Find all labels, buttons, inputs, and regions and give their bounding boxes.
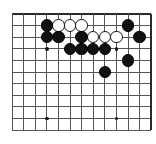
- white-stone-d1[interactable]: [52, 19, 64, 31]
- go-board-diagram: [0, 0, 156, 144]
- hoshi-lower-left-star-point: [45, 117, 49, 121]
- black-stone-d2[interactable]: [52, 31, 64, 43]
- black-stone-h3[interactable]: [99, 43, 111, 55]
- black-stone-k4[interactable]: [122, 54, 134, 66]
- hoshi-upper-right-star-point: [115, 47, 119, 51]
- black-stone-f3[interactable]: [75, 43, 87, 55]
- white-stone-f1[interactable]: [75, 19, 87, 31]
- black-stone-e3[interactable]: [64, 43, 76, 55]
- black-stone-k1[interactable]: [122, 19, 134, 31]
- black-stone-f2[interactable]: [75, 31, 87, 43]
- white-stone-j2[interactable]: [110, 31, 122, 43]
- black-stone-h5[interactable]: [99, 66, 111, 78]
- hoshi-upper-left-star-point: [45, 47, 49, 51]
- white-stone-e1[interactable]: [64, 19, 76, 31]
- black-stone-c1[interactable]: [41, 19, 53, 31]
- black-stone-l2[interactable]: [133, 31, 145, 43]
